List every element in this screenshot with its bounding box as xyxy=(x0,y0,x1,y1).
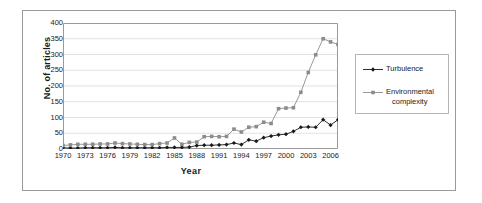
y-axis-ticks: 400350300250200150100500 xyxy=(39,11,63,192)
legend-item: Environmentalcomplexity xyxy=(362,87,434,106)
x-tick-label: 2000 xyxy=(278,151,295,160)
y-tick-label: 150 xyxy=(41,98,63,106)
x-tick-label: 1991 xyxy=(211,151,228,160)
x-tick-label: 1970 xyxy=(55,151,72,160)
x-tick-label: 2003 xyxy=(300,151,317,160)
x-tick-label: 1979 xyxy=(122,151,139,160)
chart-frame: No. of articles Year 4003503002502001501… xyxy=(22,10,456,191)
chart-legend: TurbulenceEnvironmentalcomplexity xyxy=(355,54,449,114)
legend-label: Environmentalcomplexity xyxy=(386,87,434,106)
y-tick-label: 100 xyxy=(41,114,63,122)
y-tick-label: 200 xyxy=(41,82,63,90)
legend-label-line1: Turbulence xyxy=(386,64,423,74)
x-tick-label: 2006 xyxy=(322,151,339,160)
x-tick-label: 1988 xyxy=(188,151,205,160)
legend-diamond-marker-icon xyxy=(362,65,384,74)
x-axis-ticks: 1970197319761979198219851988199119941997… xyxy=(63,151,343,165)
legend-label-line2: complexity xyxy=(392,97,434,107)
y-tick-label: 350 xyxy=(41,35,63,43)
x-tick-label: 1973 xyxy=(77,151,94,160)
line-chart-svg xyxy=(63,23,338,149)
x-tick-label: 1994 xyxy=(233,151,250,160)
y-tick-label: 250 xyxy=(41,67,63,75)
legend-label-line1: Environmental xyxy=(386,87,434,97)
legend-item: Turbulence xyxy=(362,64,423,74)
x-tick-label: 1985 xyxy=(166,151,183,160)
legend-label: Turbulence xyxy=(386,64,423,74)
x-tick-label: 1997 xyxy=(255,151,272,160)
x-tick-label: 1976 xyxy=(99,151,116,160)
y-tick-label: 400 xyxy=(41,19,63,27)
x-tick-label: 1982 xyxy=(144,151,161,160)
plot-area xyxy=(63,23,338,149)
legend-square-marker-icon xyxy=(362,88,384,97)
x-axis-label: Year xyxy=(41,166,341,176)
y-tick-label: 50 xyxy=(41,130,63,138)
y-tick-label: 300 xyxy=(41,51,63,59)
